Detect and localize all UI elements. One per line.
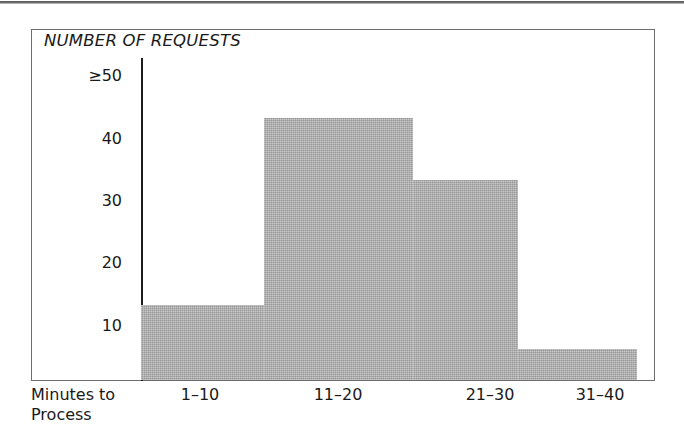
y-tick-label-40-text: 40 [102,129,122,148]
x-tick-label-31-40: 31–40 [560,385,640,404]
x-axis-title: Minutes to Process [31,385,115,425]
y-tick-label-20-text: 20 [102,253,122,272]
x-axis-title-line1: Minutes to [31,385,115,405]
y-tick-label-50-text: ≥50 [88,66,122,85]
y-tick-label-10-text: 10 [102,316,122,335]
x-tick-label-11-20: 11–20 [298,385,378,404]
histogram-bar [518,349,637,380]
y-tick-label-40: 40 [26,129,122,148]
histogram-bar [141,305,264,380]
y-tick-label-30: 30 [26,191,122,210]
y-tick-label-10: 10 [26,316,122,335]
x-tick-label-21-30: 21–30 [450,385,530,404]
y-tick-label-30-text: 30 [102,191,122,210]
chart-title: NUMBER OF REQUESTS [44,31,241,50]
x-tick-label-1-10: 1–10 [160,385,240,404]
x-axis-title-line2: Process [31,405,115,425]
y-tick-label-50: ≥50 [26,66,122,85]
histogram-figure: NUMBER OF REQUESTS ≥50 40 30 20 10 Minut… [0,0,684,444]
y-tick-label-20: 20 [26,253,122,272]
histogram-bar [413,180,518,380]
histogram-bar [264,118,413,381]
